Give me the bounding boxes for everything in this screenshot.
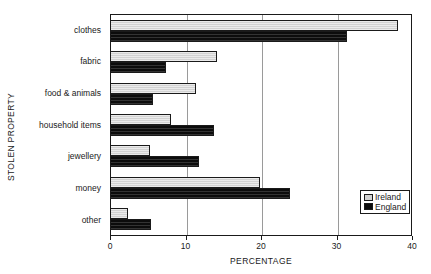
x-tick-label: 0 (108, 241, 113, 251)
bar-ireland (111, 83, 196, 94)
bar-england (111, 31, 347, 42)
category-label: food & animals (24, 77, 106, 109)
bar-ireland (111, 208, 128, 219)
x-tickmark (337, 236, 338, 240)
bar-england (111, 125, 214, 136)
x-tick-label: 40 (407, 241, 416, 251)
legend-swatch-icon (364, 194, 373, 201)
bar-group (111, 109, 411, 140)
legend: IrelandEngland (360, 190, 410, 214)
category-label: clothes (24, 14, 106, 46)
x-axis-title: PERCENTAGE (110, 256, 412, 266)
bar-ireland (111, 114, 171, 125)
bar-ireland (111, 51, 217, 62)
x-axis-tick-labels: 010203040 (110, 241, 412, 254)
bar-england (111, 156, 199, 167)
legend-label: Ireland (375, 193, 401, 202)
x-tickmark (186, 236, 187, 240)
x-tickmark (110, 236, 111, 240)
bar-ireland (111, 177, 260, 188)
bar-group (111, 15, 411, 46)
bar-england (111, 188, 290, 199)
bar-england (111, 62, 166, 73)
category-label: household items (24, 109, 106, 141)
bar-group (111, 46, 411, 77)
category-label: other (24, 204, 106, 236)
legend-label: England (375, 203, 406, 212)
category-label: jewellery (24, 141, 106, 173)
bar-chart: STOLEN PROPERTY clothesfabricfood & anim… (0, 0, 431, 274)
x-tickmark (261, 236, 262, 240)
category-label: money (24, 173, 106, 205)
bar-england (111, 94, 153, 105)
legend-item-ireland: Ireland (364, 193, 406, 202)
x-tick-label: 30 (332, 241, 341, 251)
bar-ireland (111, 145, 150, 156)
x-tick-label: 10 (181, 241, 190, 251)
category-label: fabric (24, 46, 106, 78)
y-axis-category-labels: clothesfabricfood & animalshousehold ite… (24, 14, 106, 236)
x-tick-label: 20 (256, 241, 265, 251)
legend-swatch-icon (364, 203, 373, 210)
bar-group (111, 141, 411, 172)
bar-england (111, 219, 151, 230)
bar-group (111, 78, 411, 109)
bar-ireland (111, 20, 398, 31)
legend-item-england: England (364, 203, 406, 212)
x-tickmark (412, 236, 413, 240)
y-axis-title: STOLEN PROPERTY (0, 0, 22, 274)
